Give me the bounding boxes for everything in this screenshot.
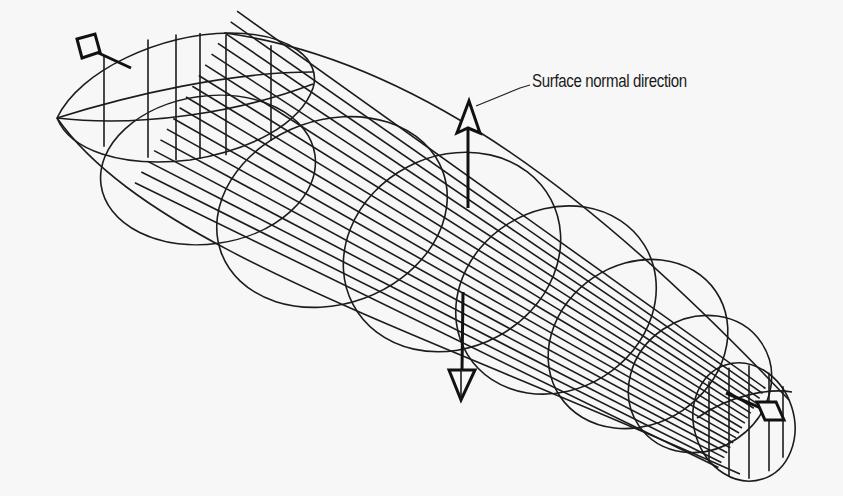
longitudinal-line: [148, 161, 725, 457]
tube-diagram: [0, 0, 843, 496]
longitudinal-line: [160, 140, 730, 448]
longitudinal-line: [218, 43, 757, 403]
arrow-head-square: [77, 34, 100, 58]
longitudinal-line: [205, 65, 751, 413]
longitudinal-line: [135, 183, 719, 468]
cross-section-ring: [91, 82, 325, 259]
longitudinal-line: [141, 172, 721, 463]
arrow-head-square: [757, 402, 784, 420]
annotation-leader-line: [476, 85, 530, 106]
longitudinal-line: [167, 129, 733, 443]
longitudinal-line: [154, 151, 727, 453]
wireframe-tube: [57, 11, 810, 494]
arrow-shaft: [462, 292, 463, 370]
arrow-head-cone: [449, 370, 475, 400]
cap-inner-curve: [57, 84, 313, 121]
longitudinal-line: [212, 54, 754, 408]
cross-section-ring: [308, 115, 596, 390]
annotation-label: Surface normal direction: [532, 71, 687, 92]
surface-normal-up-arrow: [457, 101, 480, 208]
